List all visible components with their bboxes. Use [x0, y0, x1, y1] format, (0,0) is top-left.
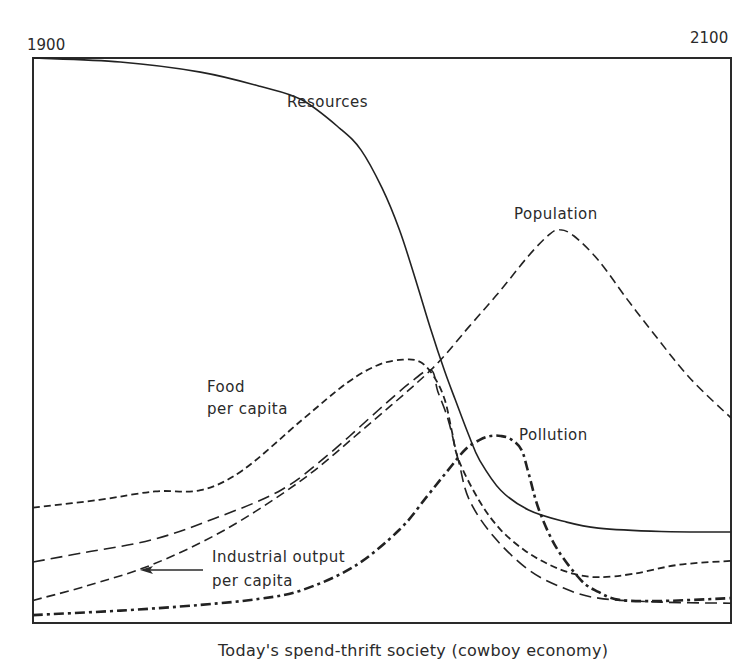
series-line-industrial-output-per-capita	[33, 370, 731, 603]
label-pollution: Pollution	[519, 426, 588, 444]
label-food-line2: per capita	[207, 400, 288, 418]
limits-to-growth-chart: 1900 2100 Resources Population Food per …	[0, 0, 750, 672]
plot-frame	[33, 58, 731, 623]
label-food-line1: Food	[207, 378, 245, 396]
series-layer	[33, 58, 731, 615]
label-resources: Resources	[287, 93, 368, 111]
series-line-resources	[33, 58, 731, 532]
series-line-pollution	[33, 436, 731, 616]
x-tick-start: 1900	[27, 36, 65, 54]
annotation-arrow	[140, 566, 203, 574]
label-population: Population	[514, 205, 598, 223]
x-tick-end: 2100	[690, 29, 728, 47]
chart-caption: Today's spend-thrift society (cowboy eco…	[217, 641, 608, 660]
label-industrial-line2: per capita	[212, 572, 293, 590]
label-industrial-line1: Industrial output	[212, 548, 345, 566]
